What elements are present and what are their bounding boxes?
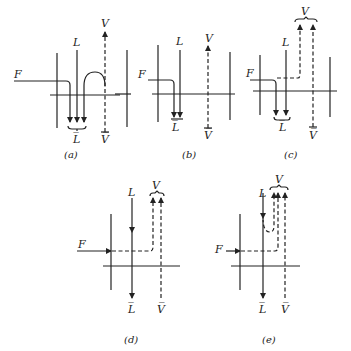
label-liquid-out: L̅: [258, 302, 266, 316]
label-liquid-out: L̅: [278, 120, 286, 134]
label-vapor-in: V̅: [281, 302, 290, 316]
label-liquid-out: L̅: [171, 120, 179, 134]
label-vapor-out: V: [152, 179, 161, 192]
feed-stream: [148, 80, 174, 117]
label-vapor-in: V̅: [101, 132, 110, 146]
label-vapor-out: V: [205, 32, 214, 45]
caption: (c): [284, 149, 298, 160]
label-feed: F: [77, 238, 86, 251]
label-liquid-out: L̅: [72, 132, 80, 146]
panel-c: F L L̅ V̅ V (c): [245, 5, 337, 160]
feed-stage-diagram: F L L̅ V̅ V (a) F L L̅ V̅ V (b): [0, 0, 351, 351]
label-vapor-out: V: [301, 5, 310, 18]
label-feed: F: [245, 67, 254, 80]
label-liquid-in: L: [258, 187, 266, 200]
feed-vapor-stream: [241, 193, 278, 251]
label-vapor-in: V̅: [157, 302, 166, 316]
label-liquid-in: L: [127, 186, 135, 199]
caption: (a): [64, 149, 78, 160]
vapor-loop: [84, 72, 105, 122]
caption: (d): [124, 334, 138, 345]
label-liquid-out: L̅: [127, 302, 135, 316]
label-vapor-in: V̅: [204, 128, 213, 142]
panel-e: F L L̅ V̅ V (e): [214, 173, 300, 345]
label-liquid-in: L: [281, 36, 289, 49]
feed-vapor-stream: [277, 25, 300, 78]
liquid-brace: [274, 117, 290, 120]
caption: (b): [182, 149, 196, 160]
label-vapor-out: V: [275, 173, 284, 186]
label-feed: F: [13, 68, 22, 81]
label-vapor-in: V̅: [309, 128, 318, 142]
feed-liquid-stream: [250, 80, 276, 115]
panel-d: F L L̅ V̅ V (d): [77, 179, 180, 345]
panel-b: F L L̅ V̅ V (b): [115, 32, 235, 160]
caption: (e): [262, 334, 276, 345]
feed-stream: [14, 81, 70, 122]
label-feed: F: [137, 68, 146, 81]
label-liquid-in: L: [175, 35, 183, 48]
label-vapor-out: V: [101, 17, 110, 30]
panel-a: F L L̅ V̅ V (a): [13, 17, 120, 160]
liquid-brace: [68, 126, 86, 131]
label-feed: F: [214, 243, 223, 256]
label-liquid-in: L: [72, 36, 80, 49]
